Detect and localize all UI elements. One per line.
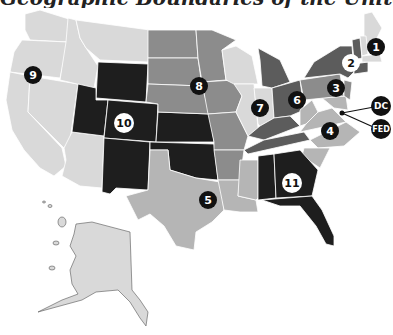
state-ak[interactable] bbox=[38, 222, 148, 326]
badge-circuit-3[interactable]: 3 bbox=[327, 79, 345, 97]
badge-circuit-8[interactable]: 8 bbox=[190, 77, 208, 95]
state-nd[interactable] bbox=[148, 30, 198, 58]
circuit-9-noncontiguous[interactable] bbox=[38, 201, 148, 326]
svg-text:11: 11 bbox=[284, 177, 299, 190]
hawaii-island-maui[interactable] bbox=[53, 241, 59, 245]
state-nj[interactable] bbox=[344, 80, 352, 100]
svg-text:3: 3 bbox=[332, 82, 340, 95]
svg-text:FED: FED bbox=[372, 125, 390, 134]
state-nm[interactable] bbox=[102, 138, 150, 194]
svg-text:2: 2 bbox=[347, 57, 355, 70]
svg-text:6: 6 bbox=[293, 94, 301, 107]
circuit-11-region[interactable] bbox=[258, 150, 334, 246]
svg-text:7: 7 bbox=[256, 102, 264, 115]
badge-circuit-fed[interactable]: FED bbox=[371, 119, 391, 139]
badge-circuit-2[interactable]: 2 bbox=[342, 54, 360, 72]
badge-circuit-9[interactable]: 9 bbox=[24, 66, 42, 84]
state-al[interactable] bbox=[258, 154, 276, 200]
state-fl[interactable] bbox=[262, 196, 334, 246]
badge-circuit-10[interactable]: 10 bbox=[114, 113, 134, 133]
badge-circuit-11[interactable]: 11 bbox=[282, 173, 302, 193]
dc-marker-dot bbox=[340, 111, 345, 116]
state-ks[interactable] bbox=[156, 112, 214, 142]
svg-text:4: 4 bbox=[326, 125, 334, 138]
badge-circuit-7[interactable]: 7 bbox=[251, 99, 269, 117]
badge-circuit-6[interactable]: 6 bbox=[288, 91, 306, 109]
hawaii-island-oahu[interactable] bbox=[49, 266, 55, 270]
hawaii-island-niihau[interactable] bbox=[43, 201, 46, 203]
state-az[interactable] bbox=[62, 132, 104, 188]
badge-circuit-dc[interactable]: DC bbox=[371, 96, 391, 116]
badge-circuit-5[interactable]: 5 bbox=[199, 191, 217, 209]
us-circuit-map: 1 2 3 4 5 6 7 8 9 10 11 DC bbox=[0, 0, 393, 335]
hawaii-island-kauai[interactable] bbox=[48, 205, 52, 208]
badge-circuit-1[interactable]: 1 bbox=[367, 38, 385, 56]
svg-text:9: 9 bbox=[29, 69, 37, 82]
state-mi[interactable] bbox=[258, 48, 290, 88]
svg-text:DC: DC bbox=[374, 101, 388, 111]
svg-text:1: 1 bbox=[372, 41, 380, 54]
svg-text:8: 8 bbox=[195, 80, 203, 93]
svg-text:5: 5 bbox=[204, 194, 212, 207]
state-wy[interactable] bbox=[96, 62, 148, 102]
state-wi[interactable] bbox=[222, 46, 258, 84]
state-ms[interactable] bbox=[238, 160, 258, 200]
state-wa[interactable] bbox=[25, 10, 72, 42]
badge-circuit-4[interactable]: 4 bbox=[321, 122, 339, 140]
hawaii-island-big[interactable] bbox=[58, 217, 66, 227]
svg-text:10: 10 bbox=[116, 117, 132, 130]
